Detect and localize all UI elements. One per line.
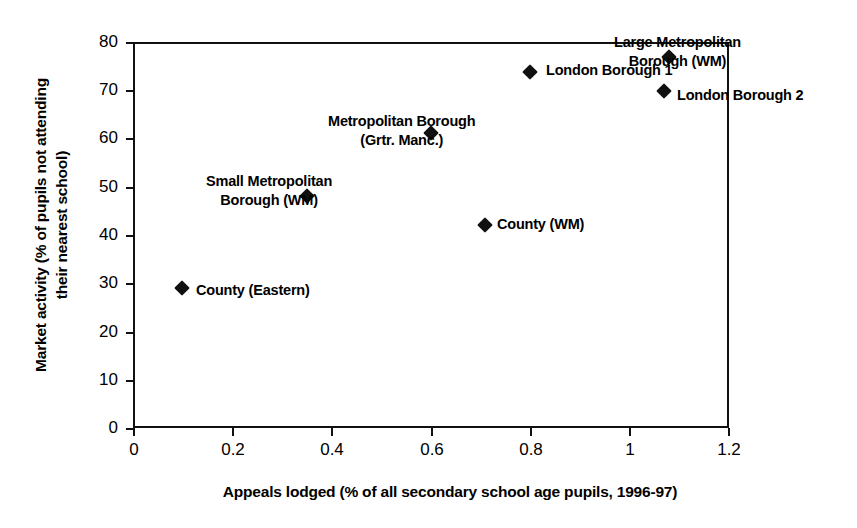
x-tick-mark-0-2 <box>232 428 234 436</box>
data-label-london-borough-2-line-1: London Borough 2 <box>677 86 803 105</box>
x-tick-mark-0-6 <box>431 428 433 436</box>
y-tick-mark-40 <box>126 235 134 237</box>
x-tick-mark-0 <box>133 428 135 436</box>
x-tick-label-0-4: 0.4 <box>297 441 367 458</box>
data-label-county-eastern-line-1: County (Eastern) <box>196 281 310 300</box>
x-tick-mark-0-4 <box>331 428 333 436</box>
y-tick-mark-10 <box>126 380 134 382</box>
plot-area <box>133 42 729 428</box>
y-tick-mark-80 <box>126 42 134 44</box>
data-label-metropolitan-line-2: (Grtr. Manc.) <box>328 131 475 150</box>
data-label-county-wm-line-1: County (WM) <box>497 215 584 234</box>
data-label-small-metropolitan-line-1: Small Metropolitan <box>206 172 332 191</box>
y-tick-label-20: 20 <box>58 323 118 340</box>
x-tick-label-0: 0 <box>99 441 169 458</box>
y-tick-label-60: 60 <box>58 129 118 146</box>
x-tick-label-0-8: 0.8 <box>496 441 566 458</box>
y-tick-label-70: 70 <box>58 81 118 98</box>
y-tick-label-80: 80 <box>58 33 118 50</box>
x-axis-title: Appeals lodged (% of all secondary schoo… <box>100 483 800 501</box>
y-tick-label-40: 40 <box>58 226 118 243</box>
y-tick-mark-30 <box>126 283 134 285</box>
data-label-county-wm: County (WM) <box>497 215 584 234</box>
data-label-small-metropolitan-line-2: Borough (WM) <box>206 191 332 210</box>
y-tick-label-0: 0 <box>58 419 118 436</box>
y-tick-label-10: 10 <box>58 371 118 388</box>
y-tick-label-30: 30 <box>58 274 118 291</box>
y-tick-mark-60 <box>126 138 134 140</box>
y-tick-mark-50 <box>126 187 134 189</box>
x-tick-mark-1 <box>629 428 631 436</box>
y-tick-label-50: 50 <box>58 178 118 195</box>
data-label-small-metropolitan-borough: Small Metropolitan Borough (WM) <box>206 172 332 210</box>
x-tick-label-1-2: 1.2 <box>694 441 764 458</box>
y-tick-mark-70 <box>126 90 134 92</box>
data-label-large-metropolitan-line-1: Large Metropolitan <box>614 33 741 52</box>
data-label-metropolitan-borough-grtr-manc: Metropolitan Borough (Grtr. Manc.) <box>328 112 475 150</box>
data-label-large-metropolitan-borough: Large Metropolitan Borough (WM) <box>614 33 741 71</box>
x-tick-mark-0-8 <box>530 428 532 436</box>
y-axis-title-line-1: Market activity (% of pupils not attendi… <box>30 15 51 435</box>
data-label-metropolitan-line-1: Metropolitan Borough <box>328 112 475 131</box>
data-label-large-metropolitan-line-2: Borough (WM) <box>614 52 741 71</box>
y-tick-mark-20 <box>126 332 134 334</box>
x-tick-label-1: 1 <box>595 441 665 458</box>
x-tick-label-0-2: 0.2 <box>198 441 268 458</box>
scatter-chart-figure: Market activity (% of pupils not attendi… <box>0 0 857 528</box>
data-label-county-eastern: County (Eastern) <box>196 281 310 300</box>
x-tick-label-0-6: 0.6 <box>397 441 467 458</box>
data-label-london-borough-2: London Borough 2 <box>677 86 803 105</box>
x-tick-mark-1-2 <box>728 428 730 436</box>
